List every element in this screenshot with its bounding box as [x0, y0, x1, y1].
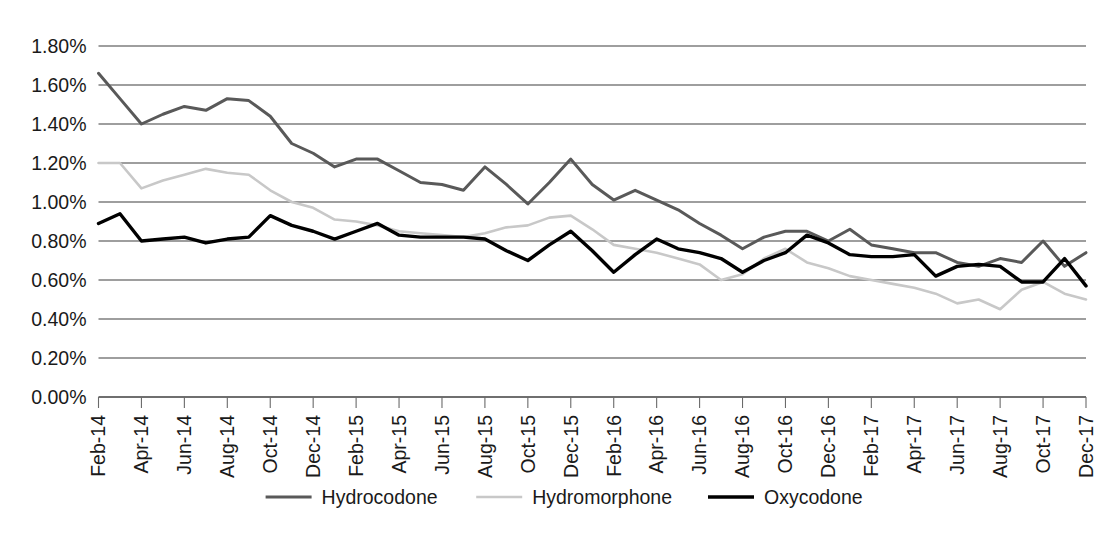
x-axis-tick-label: Apr-15 — [388, 415, 410, 474]
legend-label-hydromorphone: Hydromorphone — [532, 486, 672, 508]
y-axis-tick-label: 0.60% — [31, 269, 86, 291]
x-axis-tick-label: Jun-15 — [431, 415, 453, 475]
data-series-group — [99, 73, 1087, 309]
x-axis-tick-label: Aug-15 — [474, 415, 496, 478]
x-axis-tick-label: Dec-15 — [560, 415, 582, 478]
x-axis-tick-label: Dec-17 — [1075, 415, 1097, 478]
x-axis-tick-label: Oct-15 — [517, 415, 539, 474]
x-axis-tick-label: Dec-14 — [302, 415, 324, 478]
x-axis-tick-label: Oct-17 — [1032, 415, 1054, 474]
x-axis-tick-label: Apr-17 — [903, 415, 925, 474]
x-axis-tick-label: Jun-16 — [688, 415, 710, 475]
y-axis-tick-label: 0.00% — [31, 386, 86, 408]
y-axis-tick-label: 1.00% — [31, 191, 86, 213]
y-axis-tick-label: 1.40% — [31, 113, 86, 135]
x-axis-tick-label: Feb-16 — [603, 415, 625, 477]
x-axis-tick-label: Feb-17 — [860, 415, 882, 477]
x-axis-tick-label: Apr-16 — [645, 415, 667, 474]
x-axis-tick-label: Dec-16 — [817, 415, 839, 478]
x-axis-tick-label: Jun-14 — [173, 415, 195, 475]
legend-label-oxycodone: Oxycodone — [764, 486, 863, 508]
gridlines-group — [99, 46, 1087, 397]
line-chart: 0.00%0.20%0.40%0.60%0.80%1.00%1.20%1.40%… — [0, 0, 1117, 543]
x-axis-tick-label: Oct-14 — [259, 415, 281, 474]
x-axis-tick-label: Jun-17 — [946, 415, 968, 475]
x-axis-tick-label: Oct-16 — [774, 415, 796, 474]
series-line-oxycodone — [99, 214, 1087, 286]
legend-label-hydrocodone: Hydrocodone — [322, 486, 438, 508]
x-axis-tick-label: Aug-16 — [731, 415, 753, 478]
y-axis-tick-label: 1.20% — [31, 152, 86, 174]
y-axis-tick-label: 1.80% — [31, 35, 86, 57]
x-axis-ticks-group — [99, 397, 1087, 408]
x-axis-tick-label: Aug-17 — [989, 415, 1011, 478]
x-axis-tick-label: Feb-14 — [87, 415, 109, 477]
y-axis-labels-group: 0.00%0.20%0.40%0.60%0.80%1.00%1.20%1.40%… — [31, 35, 86, 408]
chart-legend: HydrocodoneHydromorphoneOxycodone — [266, 486, 863, 508]
x-axis-tick-label: Aug-14 — [216, 415, 238, 478]
chart-container: 0.00%0.20%0.40%0.60%0.80%1.00%1.20%1.40%… — [0, 0, 1117, 543]
y-axis-tick-label: 0.40% — [31, 308, 86, 330]
y-axis-tick-label: 0.20% — [31, 347, 86, 369]
x-axis-tick-label: Feb-15 — [345, 415, 367, 477]
y-axis-tick-label: 0.80% — [31, 230, 86, 252]
y-axis-tick-label: 1.60% — [31, 74, 86, 96]
x-axis-tick-label: Apr-14 — [130, 415, 152, 474]
x-axis-labels-group: Feb-14Apr-14Jun-14Aug-14Oct-14Dec-14Feb-… — [87, 415, 1096, 478]
